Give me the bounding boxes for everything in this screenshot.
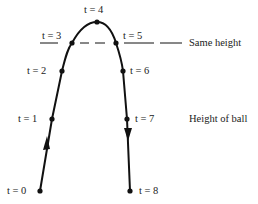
label-t5: t = 5: [123, 30, 142, 41]
point-t6: [120, 68, 125, 73]
point-t1: [49, 116, 54, 121]
label-t2: t = 2: [27, 65, 46, 76]
label-t1: t = 1: [18, 113, 37, 124]
trajectory-svg: t = 4 t = 3 t = 5 Same height t = 2 t = …: [0, 0, 258, 204]
point-t2: [59, 68, 64, 73]
label-t7: t = 7: [135, 113, 154, 124]
down-arrow-icon: [124, 128, 132, 141]
label-t0: t = 0: [7, 185, 26, 196]
label-t3: t = 3: [42, 30, 61, 41]
label-height-of-ball: Height of ball: [189, 113, 247, 124]
point-t0: [37, 188, 42, 193]
label-t6: t = 6: [130, 65, 149, 76]
label-t8: t = 8: [139, 185, 158, 196]
label-same-height: Same height: [189, 37, 241, 48]
point-t3: [69, 40, 74, 45]
point-t7: [124, 116, 129, 121]
trajectory-curve: [40, 22, 130, 191]
time-points: [37, 19, 132, 193]
ball-trajectory-diagram: t = 4 t = 3 t = 5 Same height t = 2 t = …: [0, 0, 258, 204]
label-t4: t = 4: [84, 4, 104, 15]
point-t5: [113, 40, 118, 45]
point-t4: [94, 19, 99, 24]
point-t8: [127, 188, 132, 193]
